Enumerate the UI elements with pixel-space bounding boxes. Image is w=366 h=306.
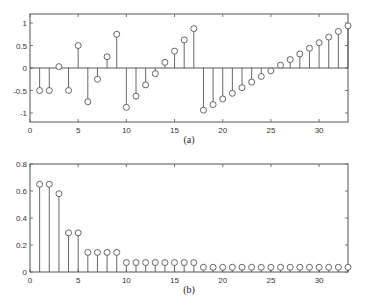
stem-marker (229, 90, 235, 96)
stem-marker (210, 102, 216, 108)
stem-marker (162, 260, 168, 266)
stem-marker (66, 88, 72, 94)
stem-marker (258, 264, 264, 270)
stem-marker (268, 68, 274, 74)
y-tick-label: 0.6 (16, 187, 28, 196)
stem-plot-a: 051015202530-1-0.500.51(a) (13, 14, 351, 146)
stem-marker (249, 264, 255, 270)
x-tick-label: 25 (266, 126, 275, 135)
y-tick-label: 0.2 (16, 241, 28, 250)
stem-marker (345, 264, 351, 270)
stem-marker (94, 249, 100, 255)
stem-marker (143, 82, 149, 88)
stem-marker (326, 34, 332, 40)
stem-marker (143, 260, 149, 266)
stem-marker (306, 45, 312, 51)
y-tick-label: 0 (23, 268, 28, 277)
stem-marker (297, 264, 303, 270)
x-tick-label: 5 (76, 126, 81, 135)
stem-marker (162, 59, 168, 65)
axes-frame (30, 164, 348, 272)
stem-marker (335, 28, 341, 34)
stem-marker (85, 249, 91, 255)
stem-marker (191, 26, 197, 32)
y-tick-label: 0.4 (16, 214, 28, 223)
stem-marker (46, 181, 52, 187)
stem-marker (152, 260, 158, 266)
x-tick-label: 30 (315, 276, 324, 285)
stem-marker (200, 264, 206, 270)
stem-marker (75, 230, 81, 236)
stem-marker (249, 79, 255, 85)
x-tick-label: 0 (28, 276, 33, 285)
x-tick-label: 10 (122, 126, 131, 135)
stem-marker (326, 264, 332, 270)
y-tick-label: 1 (23, 19, 28, 28)
y-tick-label: 0.5 (16, 42, 28, 51)
stem-marker (316, 40, 322, 46)
x-tick-label: 10 (122, 276, 131, 285)
stem-marker (56, 191, 62, 197)
stem-marker (172, 260, 178, 266)
figure: 051015202530-1-0.500.51(a) 0510152025300… (0, 0, 366, 306)
stem-marker (239, 264, 245, 270)
x-tick-label: 0 (28, 126, 33, 135)
stem-marker (220, 264, 226, 270)
stem-marker (335, 264, 341, 270)
stem-marker (220, 96, 226, 102)
stem-marker (306, 264, 312, 270)
x-tick-label: 5 (76, 276, 81, 285)
x-tick-label: 30 (315, 126, 324, 135)
x-tick-label: 25 (266, 276, 275, 285)
y-tick-label: 0.8 (16, 160, 28, 169)
stem-marker (133, 260, 139, 266)
stem-marker (181, 260, 187, 266)
x-tick-label: 20 (218, 276, 227, 285)
stem-marker (258, 73, 264, 79)
stem-marker (114, 31, 120, 37)
stem-marker (268, 264, 274, 270)
stem-marker (287, 264, 293, 270)
stem-marker (210, 264, 216, 270)
stem-marker (239, 85, 245, 91)
stem-marker (104, 249, 110, 255)
stem-marker (37, 88, 43, 94)
stem-marker (287, 57, 293, 63)
stem-marker (172, 48, 178, 54)
stem-marker (133, 93, 139, 99)
stem-marker (181, 37, 187, 43)
stem-marker (278, 264, 284, 270)
stem-marker (152, 71, 158, 77)
stem-marker (94, 76, 100, 82)
stem-marker (75, 43, 81, 49)
stem-marker (66, 230, 72, 236)
stem-marker (56, 64, 62, 70)
stem-marker (123, 104, 129, 110)
stem-marker (316, 264, 322, 270)
stem-plot-b: 05101520253000.20.40.60.8(b) (16, 160, 351, 296)
y-tick-label: -0.5 (13, 87, 27, 96)
stem-marker (37, 181, 43, 187)
subplot-caption: (a) (183, 134, 194, 146)
stem-marker (345, 23, 351, 29)
stem-marker (114, 249, 120, 255)
stem-marker (191, 260, 197, 266)
y-tick-label: -1 (20, 109, 28, 118)
stem-marker (297, 51, 303, 57)
stem-marker (200, 107, 206, 113)
stem-marker (104, 54, 110, 60)
stem-marker (46, 88, 52, 94)
x-tick-label: 15 (170, 126, 179, 135)
x-tick-label: 15 (170, 276, 179, 285)
stem-marker (278, 62, 284, 68)
stem-marker (85, 99, 91, 105)
subplot-caption: (b) (183, 284, 195, 296)
stem-marker (229, 264, 235, 270)
x-tick-label: 20 (218, 126, 227, 135)
stem-marker (123, 260, 129, 266)
y-tick-label: 0 (23, 64, 28, 73)
